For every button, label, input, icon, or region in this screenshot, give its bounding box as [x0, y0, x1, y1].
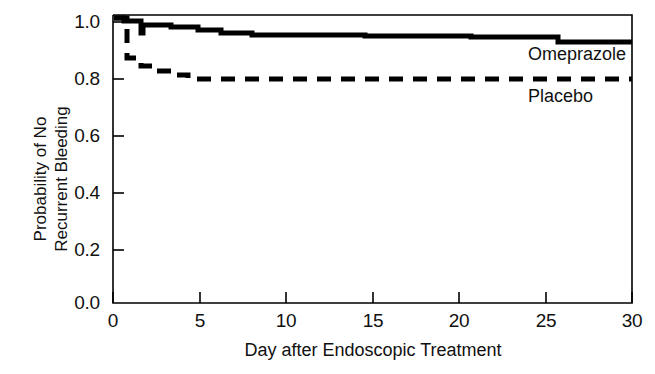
y-axis-title-line1: Probability of No: [30, 54, 51, 304]
xtick-label-30: 30: [622, 310, 643, 332]
xtick-label-0: 0: [108, 310, 118, 332]
xtick-label-20: 20: [449, 310, 470, 332]
y-axis-ticks: [113, 22, 124, 250]
ytick-label-1.0: 1.0: [28, 11, 100, 33]
xtick-label-25: 25: [536, 310, 557, 332]
kaplan-meier-chart: 1.0 0.8 0.6 0.4 0.2 0.0 0 5 10 15 20 25 …: [0, 0, 655, 374]
xtick-label-10: 10: [276, 310, 297, 332]
series-label-omeprazole: Omeprazole: [528, 44, 626, 65]
series-omeprazole-line: [114, 18, 632, 42]
xtick-label-5: 5: [195, 310, 205, 332]
xtick-label-15: 15: [363, 310, 384, 332]
x-axis-title: Day after Endoscopic Treatment: [113, 340, 633, 361]
y-axis-title: Probability of No Recurrent Bleeding: [30, 54, 72, 304]
y-axis-title-line2: Recurrent Bleeding: [51, 54, 72, 304]
series-label-placebo: Placebo: [528, 86, 593, 107]
x-axis-ticks: [113, 292, 632, 303]
